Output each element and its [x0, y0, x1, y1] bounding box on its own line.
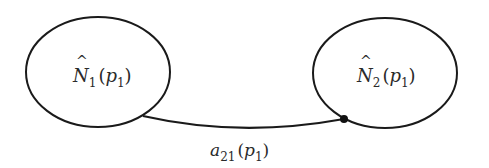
edge-label: a21(p1)	[210, 140, 269, 164]
node-n1-hat: ^	[76, 53, 88, 69]
node-n2: N2(p1) ^	[313, 18, 457, 128]
node-n1: N1(p1) ^	[26, 17, 170, 127]
edge-line	[143, 116, 344, 128]
node-n2-hat: ^	[360, 53, 372, 69]
edge-endpoint-dot-icon	[340, 115, 348, 123]
edge-n1-n2: a21(p1)	[143, 115, 348, 164]
diagram-canvas: N1(p1) ^ N2(p1) ^ a21(p1)	[0, 0, 489, 168]
